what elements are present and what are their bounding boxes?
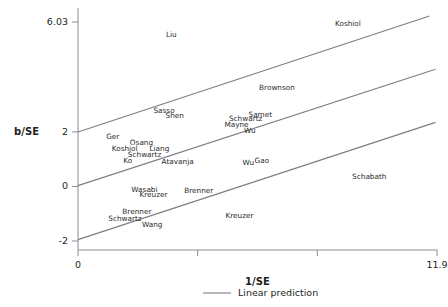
data-point-label: Schwartz bbox=[128, 151, 161, 158]
data-point-label: Schwartz bbox=[108, 215, 141, 222]
y-axis-title: b/SE bbox=[14, 126, 39, 137]
y-tick-label: 0 bbox=[62, 180, 68, 191]
data-point-label: Ger bbox=[106, 133, 119, 140]
data-point-label: Ko bbox=[123, 157, 132, 164]
middle-prediction-line bbox=[78, 69, 435, 185]
chart-canvas: b/SE 1/SE 6.0320-2 011.9 LiuKoshiolBrown… bbox=[0, 0, 448, 307]
x-axis-title: 1/SE bbox=[245, 276, 270, 287]
x-tick-label: 11.9 bbox=[427, 259, 448, 270]
data-point-label: Gao bbox=[255, 157, 270, 164]
y-tick-label: 6.03 bbox=[47, 16, 68, 27]
legend-item-linear-prediction: Linear prediction bbox=[238, 287, 318, 298]
y-tick-label: -2 bbox=[59, 235, 68, 246]
data-point-label: Kreuzer bbox=[139, 191, 167, 198]
data-point-label: Wang bbox=[142, 221, 162, 228]
data-point-label: Kreuzer bbox=[225, 212, 253, 219]
data-point-label: Shen bbox=[166, 112, 184, 119]
x-tick-marks bbox=[78, 250, 437, 256]
data-point-label: Wu bbox=[244, 127, 256, 134]
data-point-label: Schabath bbox=[352, 173, 386, 180]
data-point-label: Wu bbox=[242, 159, 254, 166]
data-point-label: Brownson bbox=[259, 84, 295, 91]
linear-prediction-lines bbox=[78, 16, 435, 240]
data-point-label: Koshiol bbox=[335, 20, 361, 27]
y-tick-marks bbox=[72, 22, 78, 241]
y-tick-label: 2 bbox=[62, 126, 68, 137]
data-point-label: Atavanja bbox=[162, 158, 194, 165]
data-point-label: Liu bbox=[166, 31, 177, 38]
x-tick-label: 0 bbox=[75, 259, 81, 270]
data-point-label: Brenner bbox=[184, 187, 213, 194]
chart-plot-svg bbox=[0, 0, 448, 307]
